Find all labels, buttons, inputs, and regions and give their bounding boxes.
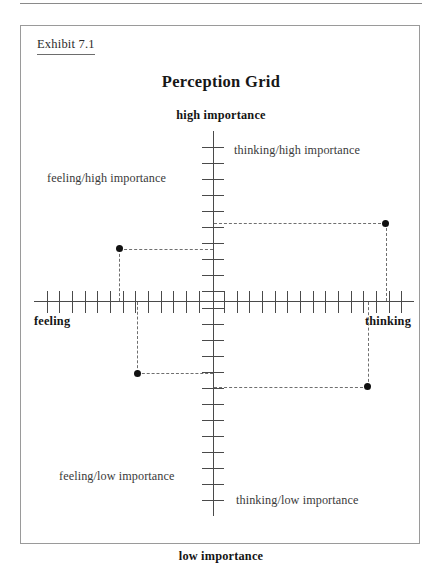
x-axis-tick <box>110 291 111 313</box>
y-axis-tick <box>202 163 224 164</box>
x-axis-tick <box>224 291 225 313</box>
leader-line-horizontal <box>214 387 368 388</box>
leader-line-vertical <box>119 249 120 302</box>
x-axis-tick <box>287 291 288 313</box>
leader-line-vertical <box>137 302 138 374</box>
point-label-thinking-high-importance: thinking/high importance <box>234 143 360 158</box>
x-axis-tick <box>123 291 124 313</box>
y-axis-tick <box>202 308 224 309</box>
y-axis-tick <box>202 468 224 469</box>
y-axis-tick <box>202 452 224 453</box>
leader-line-vertical <box>386 223 387 301</box>
leader-line-horizontal <box>137 373 213 374</box>
perception-grid-plot: feeling/high importance thinking/high im… <box>21 26 421 545</box>
y-axis-tick <box>202 356 224 357</box>
y-axis-tick <box>202 195 224 196</box>
leader-line-horizontal <box>119 249 213 250</box>
x-axis-tick <box>363 291 364 313</box>
y-axis-tick <box>202 147 224 148</box>
point-label-feeling-high-importance: feeling/high importance <box>47 171 166 186</box>
x-axis-tick <box>173 291 174 313</box>
y-axis-tick <box>202 500 224 501</box>
x-axis-tick <box>351 291 352 313</box>
data-point <box>134 370 141 377</box>
x-axis-tick <box>148 291 149 313</box>
x-axis-tick <box>186 291 187 313</box>
y-axis-tick <box>202 211 224 212</box>
exhibit-frame: Exhibit 7.1 Perception Grid high importa… <box>20 25 420 544</box>
x-axis-tick <box>47 291 48 313</box>
x-axis-tick <box>376 291 377 313</box>
x-axis-tick <box>338 291 339 313</box>
data-point <box>364 383 371 390</box>
point-label-thinking-low-importance: thinking/low importance <box>236 493 358 508</box>
y-axis-tick <box>202 388 224 389</box>
y-axis-tick <box>202 484 224 485</box>
y-axis-bottom-label: low importance <box>21 549 421 564</box>
x-axis-tick <box>85 291 86 313</box>
y-axis-tick <box>202 227 224 228</box>
x-axis-tick <box>262 291 263 313</box>
x-axis-tick <box>313 291 314 313</box>
leader-line-vertical <box>368 302 369 387</box>
x-axis-tick <box>389 291 390 313</box>
y-axis-tick <box>202 275 224 276</box>
x-axis-tick <box>325 291 326 313</box>
x-axis-tick <box>237 291 238 313</box>
x-axis-tick <box>249 291 250 313</box>
x-axis-tick <box>300 291 301 313</box>
x-axis-tick <box>72 291 73 313</box>
leader-line-horizontal <box>214 223 386 224</box>
y-axis-tick <box>202 259 224 260</box>
point-label-feeling-low-importance: feeling/low importance <box>59 469 175 484</box>
y-axis-tick <box>202 291 224 292</box>
y-axis-tick <box>202 340 224 341</box>
x-axis-tick <box>199 291 200 313</box>
data-point <box>116 245 123 252</box>
data-point <box>382 220 389 227</box>
page-header-rule <box>20 3 422 4</box>
x-axis-tick <box>59 291 60 313</box>
y-axis-tick <box>202 436 224 437</box>
x-axis-tick <box>97 291 98 313</box>
y-axis-tick <box>202 404 224 405</box>
y-axis-tick <box>202 243 224 244</box>
x-axis-tick <box>401 291 402 313</box>
x-axis-tick <box>275 291 276 313</box>
x-axis-tick <box>135 291 136 313</box>
y-axis-tick <box>202 420 224 421</box>
y-axis-tick <box>202 324 224 325</box>
x-axis-tick <box>161 291 162 313</box>
y-axis-tick <box>202 179 224 180</box>
